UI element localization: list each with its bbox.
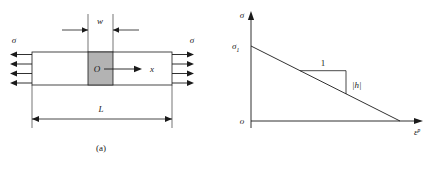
yield-stress-label: σ1	[232, 41, 239, 53]
x-axis-label: x	[149, 64, 154, 74]
yield-stress-subscript: 1	[236, 47, 239, 53]
stress-label-right: σ	[190, 35, 195, 45]
x-axis-label-group: εp	[414, 127, 421, 138]
origin-label-b: o	[240, 116, 245, 126]
panel-b-canvas: σ εp o σ1 1 |h|	[218, 0, 436, 170]
width-label: w	[97, 16, 103, 26]
length-label: L	[97, 104, 103, 114]
traction-arrows-left	[10, 51, 32, 86]
length-dimension-arrows	[32, 116, 172, 122]
caption-a: (a)	[96, 143, 106, 153]
stress-label-left: σ	[12, 35, 17, 45]
width-dimension-arrows	[62, 27, 139, 32]
traction-arrows-right	[172, 51, 194, 86]
localization-band	[88, 52, 113, 85]
x-axis-label-superscript: p	[417, 127, 421, 133]
y-axis	[248, 11, 254, 128]
figure-root: w	[0, 0, 436, 170]
panel-a-canvas: w	[0, 0, 218, 170]
panel-a-bar-diagram: w	[0, 0, 218, 170]
panel-b-softening-plot: σ εp o σ1 1 |h| (	[218, 0, 436, 170]
slope-run-label: 1	[321, 58, 326, 68]
x-axis	[251, 118, 423, 124]
y-axis-label: σ	[240, 10, 245, 20]
softening-line	[251, 46, 400, 121]
origin-label: O	[94, 64, 101, 74]
slope-rise-label: |h|	[352, 80, 361, 90]
